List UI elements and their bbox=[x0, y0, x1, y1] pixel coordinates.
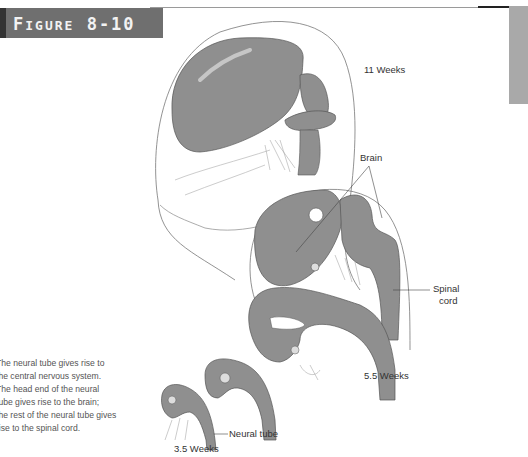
label-spinal: Spinal bbox=[433, 283, 459, 294]
brain-mid-left bbox=[255, 190, 342, 286]
label-cord: cord bbox=[439, 295, 457, 306]
label-neural-tube: Neural tube bbox=[229, 428, 278, 439]
label-brain: Brain bbox=[360, 152, 382, 163]
label-11-weeks: 11 Weeks bbox=[364, 64, 405, 75]
embryo-5-5wk bbox=[249, 287, 395, 400]
label-3-5-weeks: 3.5 Weeks bbox=[174, 443, 219, 454]
label-5-5-weeks: 5.5 Weeks bbox=[364, 370, 409, 381]
figure-caption: The neural tube gives rise to the centra… bbox=[0, 357, 176, 435]
